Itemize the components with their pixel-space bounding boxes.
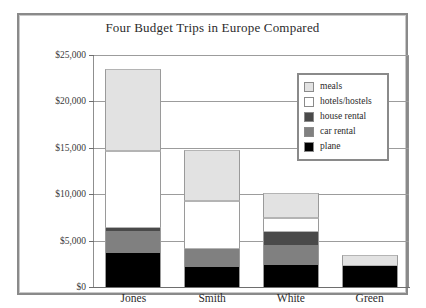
legend-label: hotels/hostels (320, 97, 372, 107)
x-axis-label-jones: Jones (105, 292, 161, 304)
x-axis-label-smith: Smith (184, 292, 240, 304)
legend-swatch-icon (304, 112, 314, 122)
bar-segment-meals[interactable] (105, 69, 161, 151)
bar-jones[interactable]: Jones (105, 69, 161, 287)
y-axis-tick (89, 101, 94, 102)
plot-right-border (408, 55, 409, 287)
legend-item-plane[interactable]: plane (304, 140, 382, 154)
legend-item-house-rental[interactable]: house rental (304, 110, 382, 124)
bar-segment-hotels-hostels[interactable] (184, 201, 240, 249)
bar-segment-meals[interactable] (342, 255, 398, 266)
bar-segment-meals[interactable] (263, 193, 319, 218)
y-axis-tick (89, 287, 94, 288)
y-axis-label: $10,000 (55, 189, 86, 199)
bar-segment-hotels-hostels[interactable] (263, 218, 319, 232)
y-axis-label: $5,000 (60, 236, 86, 246)
bar-segment-plane[interactable] (105, 253, 161, 287)
legend-label: car rental (320, 127, 356, 137)
bar-segment-car-rental[interactable] (105, 231, 161, 252)
legend-item-hotels-hostels[interactable]: hotels/hostels (304, 95, 382, 109)
x-axis-label-white: White (263, 292, 319, 304)
legend-swatch-icon (304, 97, 314, 107)
legend-label: plane (320, 142, 341, 152)
legend-item-meals[interactable]: meals (304, 80, 382, 94)
y-axis-label: $20,000 (55, 96, 86, 106)
y-axis-tick (89, 241, 94, 242)
gridline (94, 55, 409, 56)
bar-segment-plane[interactable] (342, 266, 398, 287)
bar-segment-plane[interactable] (184, 267, 240, 287)
bar-white[interactable]: White (263, 193, 319, 287)
chart-title: Four Budget Trips in Europe Compared (19, 20, 406, 36)
legend-label: house rental (320, 112, 366, 122)
y-axis-tick (89, 194, 94, 195)
legend-swatch-icon (304, 127, 314, 137)
bar-segment-meals[interactable] (184, 150, 240, 201)
bar-smith[interactable]: Smith (184, 150, 240, 287)
y-axis-label: $25,000 (55, 50, 86, 60)
y-axis-label: $15,000 (55, 143, 86, 153)
bar-segment-house-rental[interactable] (263, 232, 319, 245)
y-axis-label: $0 (77, 282, 87, 292)
bar-segment-hotels-hostels[interactable] (105, 151, 161, 228)
y-axis-tick (89, 55, 94, 56)
legend-swatch-icon (304, 142, 314, 152)
bar-segment-plane[interactable] (263, 265, 319, 287)
y-axis-tick (89, 148, 94, 149)
bar-segment-car-rental[interactable] (263, 245, 319, 265)
bar-segment-house-rental[interactable] (105, 228, 161, 232)
legend-label: meals (320, 82, 342, 92)
x-axis-line (93, 287, 410, 288)
bar-green[interactable]: Green (342, 255, 398, 287)
bar-segment-car-rental[interactable] (184, 249, 240, 267)
legend-swatch-icon (304, 82, 314, 92)
chart-legend: mealshotels/hostelshouse rentalcar renta… (297, 73, 389, 161)
x-axis-label-green: Green (342, 292, 398, 304)
legend-item-car-rental[interactable]: car rental (304, 125, 382, 139)
figure-frame: Four Budget Trips in Europe Compared $0$… (17, 13, 408, 295)
